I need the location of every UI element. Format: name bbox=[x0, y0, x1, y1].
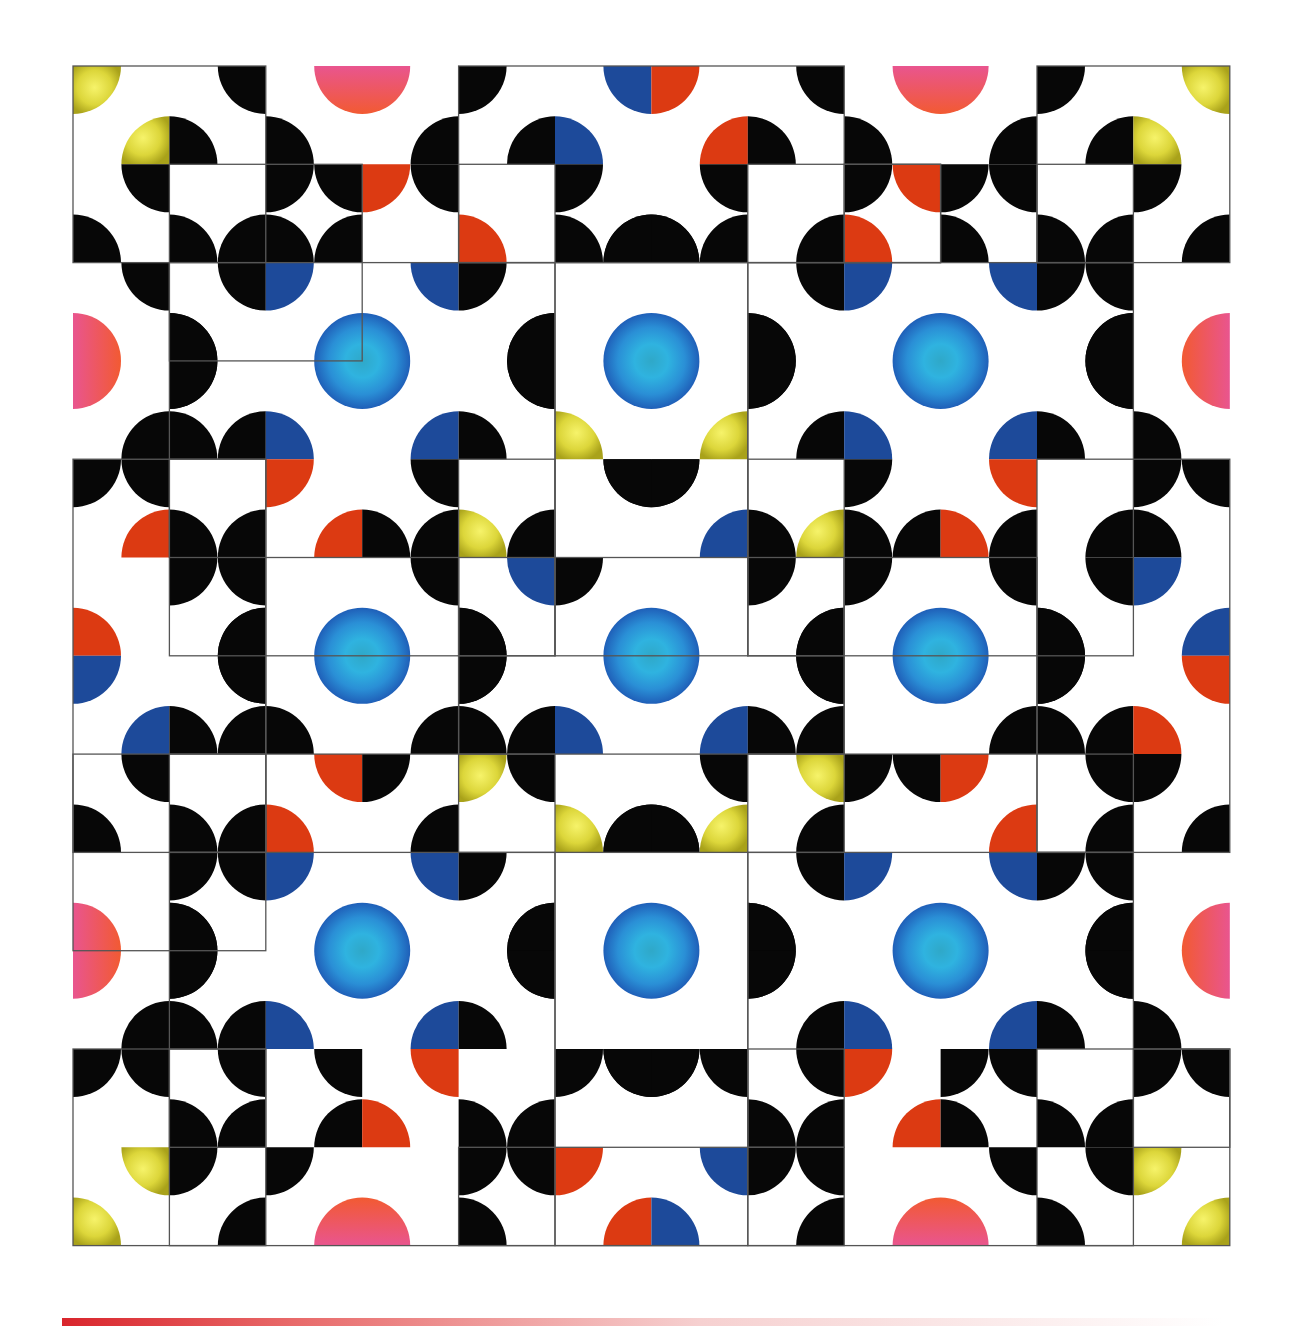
blue-quarter-disc bbox=[844, 263, 892, 311]
blue-quarter-disc bbox=[555, 706, 603, 754]
black-quarter-disc bbox=[1133, 754, 1181, 802]
yellow-quarter-disc bbox=[73, 1198, 121, 1246]
black-quarter-disc bbox=[218, 656, 266, 704]
pink-half-disc bbox=[1182, 903, 1230, 999]
black-quarter-disc bbox=[73, 215, 121, 263]
black-quarter-disc bbox=[266, 215, 314, 263]
red-quarter-disc bbox=[555, 1147, 603, 1195]
red-quarter-disc bbox=[1182, 656, 1230, 704]
black-quarter-disc bbox=[169, 510, 217, 558]
black-quarter-disc bbox=[218, 66, 266, 114]
yellow-quarter-disc bbox=[73, 66, 121, 114]
black-quarter-disc bbox=[73, 804, 121, 852]
bottom-color-strip bbox=[62, 1318, 1222, 1326]
black-quarter-disc bbox=[844, 754, 892, 802]
red-quarter-disc bbox=[1133, 706, 1181, 754]
black-quarter-disc bbox=[1085, 706, 1133, 754]
black-quarter-disc bbox=[796, 804, 844, 852]
black-quarter-disc bbox=[1085, 903, 1133, 951]
black-quarter-disc bbox=[507, 754, 555, 802]
black-quarter-disc bbox=[507, 510, 555, 558]
black-quarter-disc bbox=[1037, 1001, 1085, 1049]
black-quarter-disc bbox=[169, 1147, 217, 1195]
blue-quarter-disc bbox=[844, 1001, 892, 1049]
black-quarter-disc bbox=[121, 411, 169, 459]
blue-quarter-disc bbox=[73, 656, 121, 704]
black-quarter-disc bbox=[459, 1099, 507, 1147]
black-quarter-disc bbox=[844, 558, 892, 606]
black-quarter-disc bbox=[603, 459, 651, 507]
red-quarter-disc bbox=[314, 510, 362, 558]
black-quarter-disc bbox=[651, 804, 699, 852]
pink-half-disc bbox=[314, 66, 410, 114]
geometric-artwork bbox=[0, 0, 1290, 1326]
blue-orb bbox=[603, 903, 699, 999]
black-quarter-disc bbox=[266, 1147, 314, 1195]
black-quarter-disc bbox=[459, 608, 507, 656]
black-quarter-disc bbox=[796, 66, 844, 114]
black-quarter-disc bbox=[1037, 656, 1085, 704]
blue-quarter-disc bbox=[121, 706, 169, 754]
black-quarter-disc bbox=[1037, 608, 1085, 656]
black-quarter-disc bbox=[218, 215, 266, 263]
blue-quarter-disc bbox=[411, 263, 459, 311]
red-quarter-disc bbox=[362, 1099, 410, 1147]
black-quarter-disc bbox=[796, 1147, 844, 1195]
black-quarter-disc bbox=[989, 164, 1037, 212]
black-quarter-disc bbox=[169, 361, 217, 409]
black-quarter-disc bbox=[1133, 1001, 1181, 1049]
red-quarter-disc bbox=[603, 1198, 651, 1246]
blue-orb bbox=[893, 903, 989, 999]
black-quarter-disc bbox=[459, 1001, 507, 1049]
yellow-quarter-disc bbox=[121, 116, 169, 164]
black-quarter-disc bbox=[266, 116, 314, 164]
black-quarter-disc bbox=[651, 459, 699, 507]
pink-half-disc bbox=[1182, 313, 1230, 409]
black-quarter-disc bbox=[603, 1049, 651, 1097]
blue-quarter-disc bbox=[507, 558, 555, 606]
blue-orb bbox=[893, 313, 989, 409]
black-quarter-disc bbox=[218, 608, 266, 656]
black-quarter-disc bbox=[218, 558, 266, 606]
black-quarter-disc bbox=[844, 459, 892, 507]
black-quarter-disc bbox=[459, 66, 507, 114]
black-quarter-disc bbox=[796, 852, 844, 900]
black-quarter-disc bbox=[507, 1147, 555, 1195]
black-quarter-disc bbox=[169, 313, 217, 361]
black-quarter-disc bbox=[1085, 215, 1133, 263]
pink-half-disc bbox=[893, 66, 989, 114]
black-quarter-disc bbox=[169, 852, 217, 900]
black-quarter-disc bbox=[1085, 852, 1133, 900]
blue-quarter-disc bbox=[266, 1001, 314, 1049]
black-quarter-disc bbox=[748, 903, 796, 951]
red-quarter-disc bbox=[459, 215, 507, 263]
black-quarter-disc bbox=[1037, 1099, 1085, 1147]
black-quarter-disc bbox=[1037, 706, 1085, 754]
black-quarter-disc bbox=[459, 1147, 507, 1195]
black-quarter-disc bbox=[507, 313, 555, 361]
black-quarter-disc bbox=[1133, 510, 1181, 558]
black-quarter-disc bbox=[1085, 1099, 1133, 1147]
black-quarter-disc bbox=[218, 1049, 266, 1097]
black-quarter-disc bbox=[411, 164, 459, 212]
black-quarter-disc bbox=[748, 116, 796, 164]
black-quarter-disc bbox=[121, 1049, 169, 1097]
black-quarter-disc bbox=[1037, 263, 1085, 311]
black-quarter-disc bbox=[169, 558, 217, 606]
black-quarter-disc bbox=[796, 1049, 844, 1097]
black-quarter-disc bbox=[169, 1001, 217, 1049]
black-quarter-disc bbox=[1085, 558, 1133, 606]
black-quarter-disc bbox=[796, 263, 844, 311]
black-quarter-disc bbox=[748, 1147, 796, 1195]
black-quarter-disc bbox=[218, 1198, 266, 1246]
red-quarter-disc bbox=[266, 459, 314, 507]
yellow-quarter-disc bbox=[555, 411, 603, 459]
black-quarter-disc bbox=[893, 754, 941, 802]
black-quarter-disc bbox=[700, 1049, 748, 1097]
black-quarter-disc bbox=[603, 804, 651, 852]
black-quarter-disc bbox=[1182, 215, 1230, 263]
pink-half-disc bbox=[314, 1198, 410, 1246]
blue-quarter-disc bbox=[700, 510, 748, 558]
yellow-quarter-disc bbox=[700, 411, 748, 459]
black-quarter-disc bbox=[941, 1049, 989, 1097]
